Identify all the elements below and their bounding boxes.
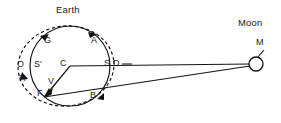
point-label-s: S xyxy=(104,59,110,68)
point-label-d: D xyxy=(113,59,120,68)
moon-leader-line xyxy=(258,50,264,57)
point-label-g: G xyxy=(44,36,51,45)
line-c-m xyxy=(70,64,250,66)
line-f-m xyxy=(44,66,250,97)
moon-title-label: Moon xyxy=(238,18,263,28)
earth-title-label: Earth xyxy=(56,5,80,15)
point-label-o: O xyxy=(17,60,24,69)
point-label-c: C xyxy=(60,59,67,68)
sight-line-f-to-moon xyxy=(44,66,250,97)
point-label-b: B xyxy=(90,91,96,100)
moon-body-group xyxy=(249,50,264,71)
point-label-s-prime: S' xyxy=(34,60,42,69)
point-label-h: H xyxy=(19,74,26,83)
point-label-v: V xyxy=(48,77,54,86)
point-label-a: A xyxy=(91,36,97,45)
point-label-f: F xyxy=(37,89,43,98)
sight-line-c-to-moon xyxy=(70,64,250,66)
moon-circle xyxy=(249,57,263,71)
earth-moon-tidal-diagram: Earth Moon M G A O S' C S D H V F B xyxy=(0,0,281,123)
point-label-m: M xyxy=(256,38,264,47)
